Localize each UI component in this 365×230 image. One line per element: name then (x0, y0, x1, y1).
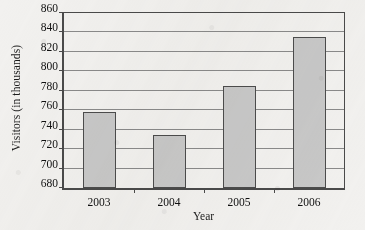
y-tick-label: 720 (41, 138, 58, 150)
bar-2005 (223, 86, 256, 188)
y-tick-mark (59, 51, 64, 52)
x-tick-label-2004: 2004 (158, 196, 181, 208)
x-tick-label-2005: 2005 (228, 196, 251, 208)
bar-2006 (293, 37, 326, 188)
y-tick-mark (59, 12, 64, 13)
x-tick-label-2003: 2003 (88, 196, 111, 208)
y-tick-mark (59, 129, 64, 130)
y-tick-mark (59, 187, 64, 188)
y-tick-mark (59, 90, 64, 91)
x-axis-title: Year (62, 210, 345, 222)
y-tick-mark (59, 31, 64, 32)
y-tick-label: 780 (41, 80, 58, 92)
y-tick-label: 740 (41, 119, 58, 131)
bar-chart: Visitors (in thousands) 6807007207407607… (0, 0, 365, 230)
plot-area: 680700720740760780800820840860 200320042… (62, 12, 345, 190)
y-tick-label: 680 (41, 177, 58, 189)
y-axis-title: Visitors (in thousands) (10, 8, 22, 188)
x-tick-mark (204, 188, 205, 193)
y-tick-mark (59, 168, 64, 169)
y-tick-label: 820 (41, 41, 58, 53)
y-tick-mark (59, 109, 64, 110)
y-tick-label: 760 (41, 99, 58, 111)
x-tick-mark (274, 188, 275, 193)
y-tick-mark (59, 70, 64, 71)
y-tick-mark (59, 148, 64, 149)
x-tick-mark (134, 188, 135, 193)
bar-2003 (83, 112, 116, 188)
y-tick-label: 800 (41, 60, 58, 72)
bar-2004 (153, 135, 186, 188)
gridline (64, 31, 344, 32)
y-tick-label: 840 (41, 21, 58, 33)
x-tick-label-2006: 2006 (298, 196, 321, 208)
y-tick-label: 860 (41, 2, 58, 14)
y-tick-label: 700 (41, 158, 58, 170)
